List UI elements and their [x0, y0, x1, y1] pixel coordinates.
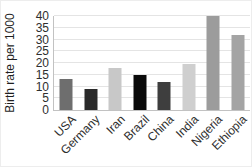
bar-slot-germany: [79, 16, 104, 110]
plot-area: [53, 16, 250, 111]
bar-chart: Birth rate per 1000 0510152025303540 USA…: [0, 0, 252, 167]
y-tick-label-40: 40: [19, 9, 49, 23]
bar-nigeria: [207, 16, 220, 110]
bar-slot-usa: [54, 16, 79, 110]
bar-ethiopia: [231, 35, 244, 110]
y-axis-title: Birth rate per 1000: [4, 13, 16, 112]
bar-slot-nigeria: [201, 16, 226, 110]
bar-brazil: [133, 75, 146, 110]
bar-slot-india: [177, 16, 202, 110]
bar-usa: [60, 79, 73, 110]
x-tick-label-china: China: [145, 113, 176, 144]
bar-india: [182, 64, 195, 110]
bar-series: [54, 16, 250, 110]
bar-slot-brazil: [128, 16, 153, 110]
bar-iran: [109, 68, 122, 110]
bar-germany: [84, 89, 97, 110]
bar-china: [158, 82, 171, 110]
x-tick-label-brazil: Brazil: [122, 113, 152, 143]
bar-slot-iran: [103, 16, 128, 110]
bar-slot-china: [152, 16, 177, 110]
bar-slot-ethiopia: [226, 16, 251, 110]
